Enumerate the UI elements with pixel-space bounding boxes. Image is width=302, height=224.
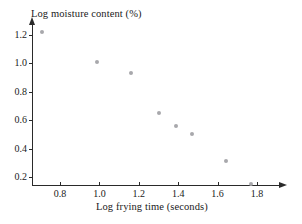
x-tick-mark: [139, 182, 140, 186]
x-tick-mark: [99, 182, 100, 186]
x-tick-label: 1.4: [166, 188, 190, 199]
x-tick-label: 1.0: [87, 188, 111, 199]
x-axis-arrow-icon: [279, 182, 287, 188]
x-tick-label: 1.2: [127, 188, 151, 199]
y-tick-mark: [29, 177, 33, 178]
data-point: [224, 159, 228, 163]
data-point: [190, 132, 194, 136]
y-tick-label: 1.2: [5, 29, 27, 40]
data-point: [95, 60, 99, 64]
x-tick-mark: [60, 182, 61, 186]
y-tick-mark: [29, 92, 33, 93]
y-axis-arrow-icon: [29, 17, 35, 25]
y-tick-label: 1.0: [5, 57, 27, 68]
y-tick-mark: [29, 149, 33, 150]
x-axis-line: [32, 185, 280, 186]
y-axis-line: [32, 24, 33, 186]
y-tick-label: 0.2: [5, 171, 27, 182]
data-point: [129, 71, 133, 75]
x-tick-label: 0.8: [48, 188, 72, 199]
y-tick-label: 0.4: [5, 143, 27, 154]
y-tick-mark: [29, 35, 33, 36]
x-tick-mark: [257, 182, 258, 186]
data-point: [174, 124, 178, 128]
y-tick-label: 0.8: [5, 86, 27, 97]
y-tick-label: 0.6: [5, 114, 27, 125]
x-tick-label: 1.6: [206, 188, 230, 199]
x-tick-mark: [218, 182, 219, 186]
y-tick-mark: [29, 63, 33, 64]
y-tick-mark: [29, 120, 33, 121]
data-point: [40, 30, 44, 34]
x-tick-mark: [178, 182, 179, 186]
y-axis-title: Log moisture content (%): [31, 8, 142, 19]
scatter-plot: Log moisture content (%) Log frying time…: [0, 0, 302, 224]
x-axis-title: Log frying time (seconds): [96, 201, 208, 212]
x-tick-label: 1.8: [245, 188, 269, 199]
data-point: [157, 111, 161, 115]
